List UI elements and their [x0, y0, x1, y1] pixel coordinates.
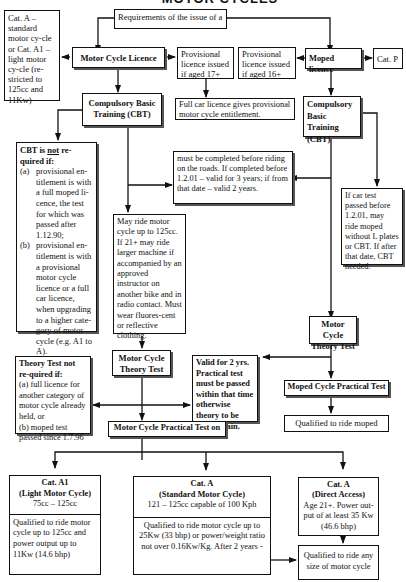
cat-a-direct-title: Cat. A [302, 480, 375, 490]
page-title: MOTOR CYCLES [120, 0, 320, 5]
cat-a1-result: Qualified to ride motor cycle up to 125c… [13, 518, 97, 560]
cbt-validity-box: must be completed before riding on the r… [173, 151, 293, 204]
motorcycle-theory-test-label: Motor Cycle Theory Test [119, 353, 165, 374]
cat-a1-box: Cat. A1 (Light Motor Cycle) 75cc – 125cc… [9, 475, 101, 575]
cat-a-standard-subtitle: (Standard Motor Cycle) [137, 490, 267, 501]
divider [10, 514, 100, 515]
cat-p-label: Cat. P [377, 54, 398, 64]
moped-cbt-box: Compulsory Basic Training (CBT) [303, 96, 361, 137]
category-note-box: Cat. A –standard motor cy-cle or Cat. A1… [4, 10, 60, 101]
category-note-text: Cat. A –standard motor cy-cle or Cat. A1… [8, 13, 52, 105]
moped-practical-test-label: Moped Cycle Practical Test [288, 382, 386, 391]
cat-a-direct-box: Cat. A (Direct Access) Age 21+. Power ou… [298, 477, 379, 536]
cbt-not-required-title: CBT is not re-quired if: [20, 145, 93, 166]
qualified-moped-box: Qualified to ride moped [284, 415, 389, 432]
motorcycle-practical-test-label: Motor Cycle Practical Test on [114, 423, 220, 432]
motorcycle-practical-test-box: Motor Cycle Practical Test on [108, 421, 226, 437]
theory-exemption-a: (a) full licence for another category of… [19, 380, 87, 422]
cat-p-box: Cat. P [373, 48, 403, 69]
provisional-16-text: Provisional licence issued if aged 16+ [242, 49, 290, 79]
motorcycle-licence-label: Motor Cycle Licence [80, 53, 156, 63]
theory-not-required-title: Theory Test not re-quired if: [19, 359, 87, 380]
cat-a-standard-title: Cat. A [137, 479, 267, 490]
provisional-16-box: Provisional licence issued if aged 16+ [238, 47, 296, 79]
cat-a-direct-spec: Age 21+. Power out-put of at least 35 Kw… [302, 501, 375, 532]
cbt-validity-text: must be completed before riding on the r… [177, 154, 288, 193]
divider [134, 517, 270, 518]
cat-a-standard-spec: 121 – 125cc capable of 100 Kph [137, 500, 267, 511]
motorcycle-licence-box: Motor Cycle Licence [72, 47, 165, 68]
cat-a-standard-box: Cat. A (Standard Motor Cycle) 121 – 125c… [133, 476, 271, 575]
provisional-17-box: Provisional licence issued if aged 17+ [177, 47, 234, 79]
cat-a1-spec: 75cc – 125cc [13, 499, 97, 510]
theory-not-required-box: Theory Test not re-quired if: (a) full l… [15, 356, 91, 434]
cat-a1-subtitle: (Light Motor Cycle) [13, 489, 97, 500]
cat-a-standard-result: Qualified to ride motor cycle up to 25Kw… [137, 521, 267, 553]
moped-cbt-label: Compulsory Basic Training (CBT) [307, 99, 352, 144]
moped-licence-label: Moped licence [309, 54, 334, 74]
moped-licence-box: Moped licence [305, 48, 362, 69]
qualified-any-box: Qualified to ride any size of motor cycl… [298, 545, 379, 580]
moped-theory-test-label: Motor Cycle Theory Test [311, 319, 355, 351]
may-ride-text: May ride motor cycle up to 125cc. If 21+… [117, 217, 182, 340]
motorcycle-theory-test-box: Motor Cycle Theory Test [112, 350, 171, 376]
cat-a-direct-subtitle: (Direct Access) [302, 490, 375, 500]
motorcycle-cbt-label: Compulsory Basic Training (CBT) [88, 98, 155, 119]
moped-practical-test-box: Moped Cycle Practical Test [284, 380, 389, 396]
car-test-note-box: If car test passed before 1.2.01, may ri… [341, 188, 403, 265]
qualified-any-text: Qualified to ride any size of motor cycl… [304, 551, 374, 571]
cat-a1-title: Cat. A1 [13, 478, 97, 489]
full-car-licence-box: Full car licence gives provisional motor… [175, 98, 295, 120]
theory-exemption-b: (b) moped test passed since 1.7.96 [19, 423, 87, 444]
cbt-not-required-box: CBT is not re-quired if: (a) provisional… [16, 142, 97, 332]
provisional-17-text: Provisional licence issued if aged 17+ [181, 49, 229, 79]
may-ride-box: May ride motor cycle up to 125cc. If 21+… [113, 214, 186, 334]
theory-valid-box: Valid for 2 yrs. Practical test must be … [192, 355, 258, 422]
moped-theory-test-box: Motor Cycle Theory Test [309, 316, 357, 344]
motorcycle-cbt-box: Compulsory Basic Training (CBT) [82, 93, 162, 126]
car-test-note-text: If car test passed before 1.2.01, may ri… [345, 191, 399, 271]
cbt-exemption-a: (a) provisional en-titlement is with a f… [20, 166, 93, 240]
full-car-licence-text: Full car licence gives provisional motor… [179, 100, 290, 119]
cbt-exemption-b: (b) provisional en-titlement is with a p… [20, 240, 93, 357]
requirements-box: Requirements of the issue of a [114, 9, 227, 29]
qualified-moped-text: Qualified to ride moped [295, 418, 377, 428]
requirements-text: Requirements of the issue of a [118, 12, 222, 22]
theory-valid-text: Valid for 2 yrs. Practical test must be … [196, 358, 253, 431]
